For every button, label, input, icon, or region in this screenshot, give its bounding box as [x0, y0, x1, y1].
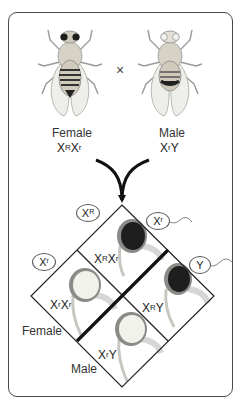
male-parent-label: Male — [155, 127, 189, 140]
offspring-genotype-left: XrXr — [50, 299, 71, 312]
punnett-female-axis-label: Female — [22, 325, 62, 338]
offspring-genotype-bottom: XrY — [98, 349, 117, 362]
male-fly-icon — [138, 30, 202, 116]
punnett-male-axis-label: Male — [71, 363, 97, 376]
male-parent-genotype: XrY — [160, 142, 179, 155]
female-parent-label: Female — [50, 127, 94, 140]
female-gamete-xr: Xr — [32, 253, 56, 271]
cross-arrow-icon — [96, 160, 149, 203]
female-gamete-xR: XR — [76, 204, 100, 222]
female-parent-genotype: XRXr — [57, 142, 81, 155]
female-fly-icon — [38, 30, 102, 116]
diagram-graphics — [0, 0, 242, 406]
cross-symbol: × — [116, 62, 124, 78]
punnett-square — [31, 205, 232, 387]
male-gamete-xr: Xr — [146, 212, 170, 230]
offspring-genotype-top: XRXr — [94, 253, 118, 266]
male-gamete-y: Y — [189, 256, 211, 274]
offspring-genotype-right: XRY — [142, 302, 164, 315]
